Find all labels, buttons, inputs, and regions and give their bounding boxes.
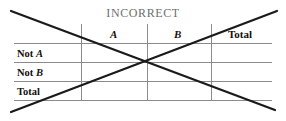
row-header-not-a: Not A (17, 49, 43, 60)
row-header-not-b-variable: B (36, 67, 43, 78)
table-rule-row-1-bottom (14, 62, 272, 63)
row-header-not-b-prefix: Not (17, 67, 33, 78)
row-header-not-b: Not B (17, 68, 43, 79)
table-rule-header-bottom (14, 43, 272, 44)
row-header-not-a-prefix: Not (17, 48, 33, 59)
incorrect-two-way-table-figure: INCORRECT A B Total Not A Not B Total (0, 0, 286, 121)
table-rule-column-3 (211, 24, 212, 100)
row-header-total: Total (17, 87, 40, 98)
column-header-b: B (174, 29, 181, 40)
figure-title: INCORRECT (0, 6, 286, 21)
table-rule-row-2-bottom (14, 81, 272, 82)
column-header-total: Total (228, 29, 252, 40)
row-header-not-a-variable: A (36, 48, 43, 59)
table-rule-column-2 (147, 24, 148, 100)
row-header-total-prefix: Total (17, 86, 40, 97)
table-rule-row-3-bottom (14, 100, 272, 101)
table-rule-column-1 (81, 24, 82, 100)
column-header-a: A (110, 29, 117, 40)
